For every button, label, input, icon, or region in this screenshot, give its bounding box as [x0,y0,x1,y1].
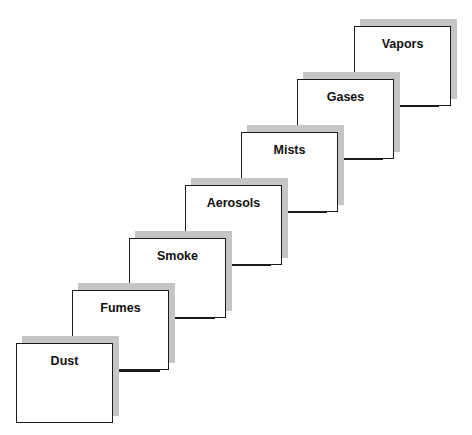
box: Dust [16,343,113,423]
step-label: Mists [242,143,337,157]
step-label: Aerosols [186,196,281,210]
connector-dust-fumes [118,370,160,372]
step-dust: Dust [16,343,113,423]
step-label: Fumes [73,301,168,315]
step-label: Smoke [130,249,225,263]
step-label: Dust [17,354,112,368]
step-label: Gases [298,90,393,104]
staircase-diagram: Vapors Gases Mists Aerosols Smoke Fumes [0,0,472,435]
step-label: Vapors [355,37,450,51]
